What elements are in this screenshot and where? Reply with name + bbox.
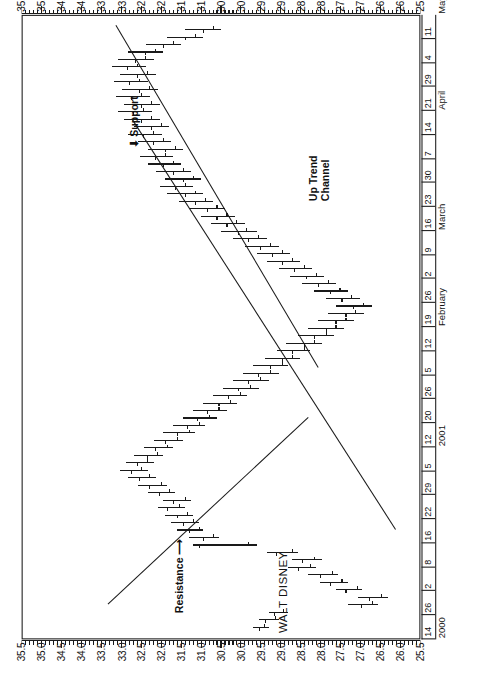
date-tick-label: 16 — [421, 519, 435, 543]
date-tick-label: 14 — [421, 615, 435, 639]
date-tick-label: 5 — [421, 351, 435, 375]
plot-area: Resistance ⟶ ⬇ Support Up Trend Channel — [22, 15, 419, 637]
arrow-right-icon: ⟶ — [173, 539, 185, 554]
annotation-uptrend-line1: Up Trend — [307, 155, 319, 201]
date-axis: 1426281622295122026512192629162330714212… — [421, 14, 463, 639]
date-tick-label: 2 — [421, 255, 435, 279]
annotation-support-label: Support — [128, 96, 140, 136]
annotation-resistance: Resistance ⟶ — [173, 539, 185, 612]
annotation-uptrend-line2: Channel — [319, 155, 331, 201]
month-label: April — [436, 90, 447, 109]
date-tick-label: 7 — [421, 134, 435, 158]
date-tick-label: 12 — [421, 423, 435, 447]
support-line — [131, 118, 395, 529]
date-tick-label: 9 — [421, 231, 435, 255]
date-tick-label: 8 — [421, 543, 435, 567]
year-label: 2000 — [436, 617, 447, 638]
date-tick-label: 12 — [421, 327, 435, 351]
date-tick-label: 26 — [421, 375, 435, 399]
page-title: WALT DISNEY — [276, 551, 289, 633]
year-label: 2001 — [436, 425, 447, 446]
month-label: February — [436, 288, 447, 326]
price-axis-ticks — [21, 639, 420, 650]
annotation-resistance-label: Resistance — [173, 557, 185, 613]
date-tick-label: 26 — [421, 279, 435, 303]
uptrend-upper-line — [115, 25, 317, 367]
date-tick-label: 30 — [421, 158, 435, 182]
price-axis-left: 35.535.034.534.033.533.032.532.031.531.0… — [21, 639, 420, 681]
annotation-support: ⬇ Support — [128, 96, 140, 148]
date-tick-label: 16 — [421, 207, 435, 231]
month-label: March — [436, 203, 447, 229]
trendlines-layer — [22, 15, 419, 637]
date-tick-label: 21 — [421, 86, 435, 110]
date-tick-label: 11 — [421, 14, 435, 38]
date-tick-label: 26 — [421, 591, 435, 615]
date-tick-label: 22 — [421, 495, 435, 519]
date-tick-label: 5 — [421, 447, 435, 471]
annotation-up-trend-channel: Up Trend Channel — [307, 155, 330, 201]
date-tick-label: 14 — [421, 110, 435, 134]
date-tick-label: 23 — [421, 182, 435, 206]
arrow-up-icon: ⬇ — [128, 139, 140, 147]
date-tick-label: 4 — [421, 38, 435, 62]
price-axis-ticks — [21, 4, 420, 15]
price-axis-right: 35.535.034.534.033.533.032.532.031.531.0… — [21, 0, 420, 14]
date-tick-label: 20 — [421, 399, 435, 423]
rotated-chart-stage: 35.535.034.534.033.533.032.532.031.531.0… — [13, 6, 467, 681]
date-tick-label: 29 — [421, 471, 435, 495]
date-tick-label: 19 — [421, 303, 435, 327]
plot-frame: Resistance ⟶ ⬇ Support Up Trend Channel — [21, 14, 420, 639]
chart-page: 35.535.034.534.033.533.032.532.031.531.0… — [0, 0, 479, 687]
month-label: May — [436, 0, 447, 13]
date-tick-label: 29 — [421, 62, 435, 86]
date-tick-label: 2 — [421, 567, 435, 591]
